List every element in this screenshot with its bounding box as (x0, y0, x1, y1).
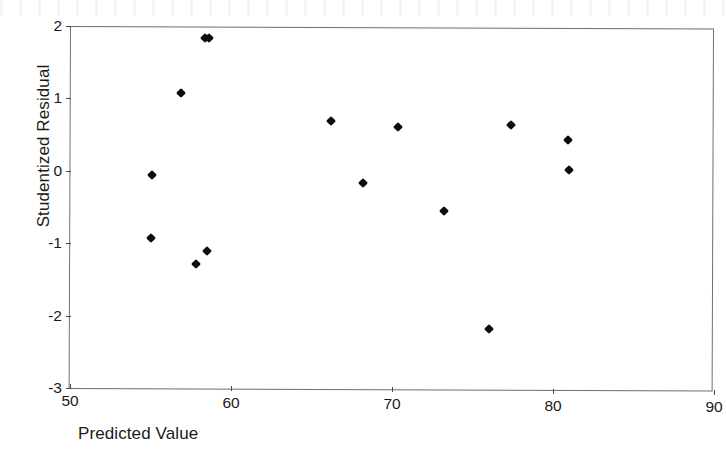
y-axis-title: Studentized Residual (34, 26, 54, 266)
x-tick-label: 70 (383, 396, 400, 412)
x-tick-mark (70, 384, 71, 389)
x-tick-label: 90 (705, 399, 722, 415)
y-tick-label: 0 (53, 163, 62, 179)
x-tick-mark (553, 389, 554, 394)
y-tick-mark (66, 171, 71, 172)
residual-scatter-figure: 210-1-2-3 5060708090 Studentized Residua… (0, 0, 726, 466)
x-tick-mark (714, 390, 715, 395)
y-tick-label: 2 (53, 18, 62, 34)
scan-noise-artifact (0, 0, 726, 16)
x-tick-label: 80 (544, 398, 561, 414)
x-axis-title: Predicted Value (78, 424, 198, 444)
y-tick-label: 1 (53, 90, 62, 106)
x-tick-mark (231, 386, 232, 391)
x-tick-mark (392, 387, 393, 392)
x-tick-label: 60 (222, 395, 239, 411)
y-tick-mark (66, 98, 71, 99)
y-tick-label: -2 (48, 308, 62, 324)
y-tick-mark (66, 243, 71, 244)
plot-area (69, 26, 714, 391)
y-tick-mark (66, 316, 71, 317)
x-tick-label: 50 (61, 393, 78, 409)
y-tick-label: -3 (48, 380, 62, 396)
y-tick-mark (66, 26, 71, 27)
